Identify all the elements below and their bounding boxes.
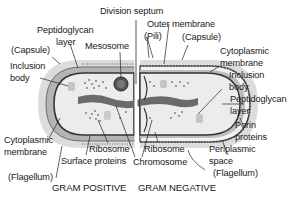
label-cytoplasmic-left-2: membrane: [4, 147, 47, 157]
inclusion-body-left: [68, 82, 75, 91]
label-inclusion-left-2: body: [10, 73, 30, 83]
label-capsule-left: (Capsule): [11, 45, 50, 55]
label-peptidoglycan-right-2: layer: [230, 106, 249, 116]
label-flagellum-right: (Flagellum): [213, 168, 258, 178]
label-division-septum: Division septum: [100, 6, 163, 16]
label-capsule-right: (Capsule): [182, 32, 221, 42]
label-peptidoglycan-left-1: Peptidoglycan: [37, 25, 93, 35]
caption-gram-negative: GRAM NEGATIVE: [138, 183, 216, 193]
label-ribosome-left: Ribosome: [89, 144, 130, 154]
label-porin-1: Porin: [235, 120, 256, 130]
label-flagellum-left: (Flagellum): [8, 172, 53, 182]
gram-positive-cell: [38, 60, 140, 148]
label-inclusion-left-1: Inclusion: [10, 61, 45, 71]
label-cytoplasmic-left-1: Cytoplasmic: [4, 135, 53, 145]
label-mesosome: Mesosome: [85, 41, 129, 51]
label-cytoplasmic-right-1: Cytoplasmic: [220, 46, 269, 56]
label-peptidoglycan-left-2: layer: [56, 37, 75, 47]
label-periplasmic-1: Periplasmic: [209, 144, 255, 154]
label-inclusion-right-1: Inclusion: [229, 70, 264, 80]
label-porin-2: proteins: [235, 132, 267, 142]
label-inclusion-right-2: body: [229, 82, 249, 92]
caption-gram-positive: GRAM POSITIVE: [52, 183, 126, 193]
label-pili: (Pili): [144, 31, 162, 41]
label-chromosome: Chromosome: [133, 157, 187, 167]
label-periplasmic-2: space: [209, 156, 233, 166]
label-cytoplasmic-right-2: membrane: [220, 58, 263, 68]
inclusion-body-right: [196, 114, 203, 123]
label-surface-proteins: Surface proteins: [61, 156, 126, 166]
label-peptidoglycan-right-1: Peptidoglycan: [230, 94, 286, 104]
label-ribosome-right: Ribosome: [144, 144, 185, 154]
label-outer-membrane: Outer membrane: [147, 19, 215, 29]
